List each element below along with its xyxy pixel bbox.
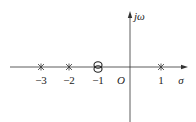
pole-zero-plot: −3 −2 −1 O 1 σ jω [0,0,196,122]
tick-label: −1 [92,74,104,86]
tick-label: −2 [63,74,75,86]
imag-axis-label: jω [132,10,145,22]
real-axis-arrow-icon [181,65,188,69]
tick-label: 1 [158,74,164,86]
imag-axis-arrow-icon [128,11,132,18]
real-axis-label: σ [178,74,184,86]
tick-label: −3 [35,74,47,86]
origin-label: O [117,74,125,86]
